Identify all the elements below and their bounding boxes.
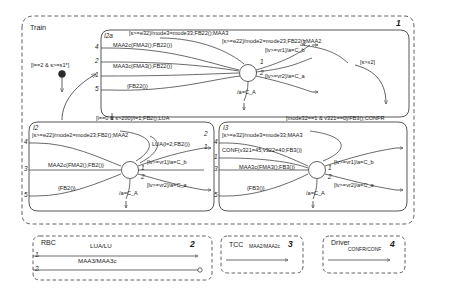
region-i2-edge-label-lua: LUA{l=2;FB2()}	[152, 142, 190, 148]
region-i3-right-port-2[interactable]: 2	[328, 174, 332, 180]
train-block-title: Train	[30, 24, 46, 31]
region-i2a-left-port-1[interactable]: 1	[95, 72, 99, 78]
region-i3-left-port-3[interactable]: 3	[214, 166, 218, 172]
rbc-block-index: 2	[190, 240, 195, 249]
region-i2a-right-port-1[interactable]: 1	[260, 59, 264, 65]
region-i2a-left-port-5[interactable]: 5	[95, 86, 99, 92]
region-i3-right-port-1[interactable]: 1	[328, 165, 332, 171]
region-i2-left-port-3[interactable]: 3	[24, 166, 28, 172]
rbc-block-border	[33, 236, 212, 280]
region-i2a-edge-label-maa3c: MAA3c{FMA3();FB22()}	[113, 64, 172, 70]
region-i2-top-label-2: [s>=e22]/mode2=mode23;FB2();MAA2	[32, 133, 128, 139]
region-i2a-edge-label-vr2: [lv>=vr2]/a=C_a	[265, 74, 305, 80]
region-i3-edge-label-maa3c: MAA3c{FMA3();FB3()}	[239, 165, 295, 171]
driver-block-title: Driver	[331, 239, 350, 246]
driver-channel-1-label: CONFR/CONF	[348, 247, 381, 252]
region-i2-name: I2	[33, 125, 38, 131]
transition-label-init-guard: [l==2 & s>=s1*]	[31, 63, 69, 69]
region-i2a-right-port-3[interactable]: 3	[302, 40, 306, 46]
initial-state-node	[59, 71, 66, 78]
train-block-index: 1	[396, 19, 401, 28]
region-i2a-edge-label-maa2c: MAA2c{FMA2();FB22()}	[113, 43, 172, 49]
region-i2a-top-label-1: [s>=e32]/mode3=mode33;FB22();MAA3	[129, 31, 228, 37]
tcc-block-title: TCC	[229, 241, 243, 248]
region-i3-top-label-2: [s>=e32]/mode3=mode33;MAA3	[222, 133, 303, 139]
region-i3-edge-label-vr2: [lv>=vr2]/a=C_a	[334, 183, 374, 189]
region-i3-edge-label-fb3: {FB3()}	[247, 186, 265, 192]
region-i2-right-port-2[interactable]: 2	[204, 131, 208, 137]
region-i2a-edge-label-aca: /a=C_A	[237, 90, 256, 96]
region-i2-edge-label-vr1: [lv>=vr1]/a=C_b	[147, 160, 187, 166]
region-i3-left-port-5[interactable]: 5	[214, 192, 218, 198]
region-i2-edge-label-fb2: {FB2()}	[58, 186, 76, 192]
rbc-block-title: RBC	[41, 239, 56, 246]
region-i3-edge-label-aca: /a=C_A	[306, 191, 325, 197]
transition-label-exit-guard: [s>x2]	[360, 60, 375, 66]
region-i2a-edge-label-fb22: {FB22()}	[127, 84, 148, 90]
region-i3-edge-label-conf: CONF{v321=45;v322=40;FB3()}	[222, 148, 302, 154]
region-i2-top-label-1: [l==0 & s>200]/l=1;FB2();LUA	[96, 116, 169, 122]
tcc-channel-1-label: MAA2/MAA2c	[249, 244, 280, 249]
region-i3-edge-label-vr1: [lv>=vr1]/a=C_b	[334, 160, 374, 166]
region-i2a-edge-label-vr1: [lv>=vr1]/a=C_b	[265, 48, 305, 54]
rbc-channel-2-port[interactable]: 2	[35, 266, 39, 272]
region-i2a-top-label-2: [s>=e22]/mode2=mode23;FB22();MAA2	[222, 39, 321, 45]
rbc-channel-1-port[interactable]: 1	[35, 252, 39, 258]
region-i3-top-label-1: [mode32==1 & v321==0]/FB3();CONFR	[286, 116, 385, 122]
region-i2-left-port-5[interactable]: 5	[24, 192, 28, 198]
region-i2-right-port-1[interactable]: 1	[204, 144, 208, 150]
region-i2-edge-label-vr2: [lv>=vr2]/a=C_a	[147, 183, 187, 189]
tcc-block-index: 3	[288, 240, 293, 249]
region-i2-left-port-4[interactable]: 4	[24, 139, 28, 145]
region-i2-right-port-2b[interactable]: 2	[141, 174, 145, 180]
region-i2a-name: I2a	[104, 33, 113, 39]
rbc-channel-2-label: MAA3/MAA3c	[78, 258, 117, 264]
rbc-channel-1-label: LUA/LU	[90, 243, 112, 249]
region-i2a-left-port-4[interactable]: 4	[95, 44, 99, 50]
region-i2a-right-port-2[interactable]: 2	[260, 70, 264, 76]
driver-block-index: 4	[390, 240, 395, 249]
region-i3-name: I3	[223, 125, 228, 131]
region-i3-left-port-4[interactable]: 4	[214, 139, 218, 145]
diagram-canvas: Train 1 I2a [s>=e32]/mode3=mode33;FB22()…	[0, 0, 450, 290]
region-i3-left-port-1[interactable]: 1	[214, 154, 218, 160]
region-i2-right-port-1b[interactable]: 1	[141, 165, 145, 171]
region-i2-edge-label-aca: /a=C_A	[119, 191, 138, 197]
region-i2a-left-port-2[interactable]: 2	[95, 58, 99, 64]
region-i2-edge-label-maa2c: MAA2c{FMA2();FB2()}	[48, 163, 104, 169]
